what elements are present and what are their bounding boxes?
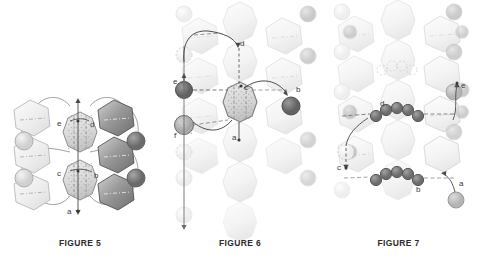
fig5-site-left-upper xyxy=(15,132,33,150)
figure-7-caption: FIGURE 7 xyxy=(320,238,477,248)
fig5-label-b: b xyxy=(94,171,99,180)
fig7-label-c: c xyxy=(337,163,341,172)
fig6-label-a: a xyxy=(232,133,237,142)
fig5-site-left-lower xyxy=(15,169,33,187)
figure-6: d e c b f a FIGURE 6 xyxy=(160,0,320,262)
fig5-label-a: a xyxy=(67,207,72,216)
fig7-label-b: b xyxy=(416,185,421,194)
fig6-site-b xyxy=(282,97,300,115)
fig5-hexagon-left-top xyxy=(14,100,50,136)
fig5-cage-top xyxy=(63,112,97,152)
fig5-site-right-upper xyxy=(127,132,145,150)
fig5-label-c: c xyxy=(57,169,61,178)
fig6-label-b: b xyxy=(296,85,301,94)
fig7-site-c-source xyxy=(338,144,354,160)
figure-7: e d c b a FIGURE 7 xyxy=(320,0,477,262)
fig5-label-e: e xyxy=(57,119,62,128)
fig6-label-c: c xyxy=(244,83,248,92)
fig5-hexagon-right-top xyxy=(98,100,134,136)
figure-sheet: e d c b a FIGURE 5 xyxy=(0,0,477,262)
figure-5: e d c b a FIGURE 5 xyxy=(0,0,160,262)
figure-7-drawing: e d c b a xyxy=(320,0,477,240)
figure-6-caption: FIGURE 6 xyxy=(160,238,320,248)
fig5-cage-bottom xyxy=(63,160,97,200)
fig6-cage-center xyxy=(223,82,257,122)
fig6-label-d: d xyxy=(240,39,244,48)
figure-5-drawing: e d c b a xyxy=(0,0,160,240)
fig7-label-d: d xyxy=(380,99,384,108)
fig7-label-a: a xyxy=(459,179,464,188)
fig7-label-e: e xyxy=(461,81,466,90)
fig5-label-d: d xyxy=(90,120,94,129)
fig7-site-e-target xyxy=(446,84,462,100)
figure-5-caption: FIGURE 5 xyxy=(0,238,160,248)
fig7-site-a xyxy=(448,192,464,208)
fig6-label-e: e xyxy=(173,77,178,86)
figure-6-drawing: d e c b f a xyxy=(160,0,320,240)
fig5-site-right-lower xyxy=(127,169,145,187)
